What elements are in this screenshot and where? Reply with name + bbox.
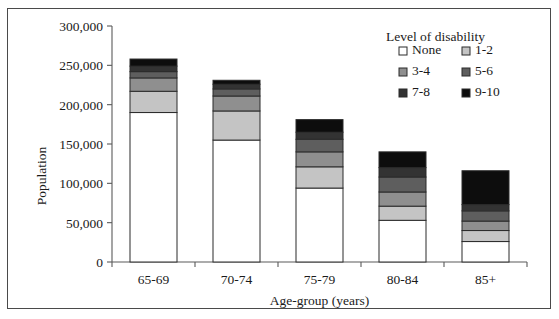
category-label: 80-84 bbox=[387, 272, 419, 287]
y-axis-tick-group: 050,000100,000150,000200,000250,000300,0… bbox=[59, 19, 112, 270]
legend-swatch bbox=[399, 68, 407, 76]
bar-segment bbox=[130, 66, 177, 72]
y-axis-tick-label: 100,000 bbox=[59, 176, 103, 191]
legend-swatch bbox=[399, 89, 407, 97]
bar-segment bbox=[379, 177, 426, 192]
category-label: 70-74 bbox=[221, 272, 253, 287]
bar-segment bbox=[296, 167, 343, 188]
bar-segment bbox=[213, 89, 260, 96]
category-label: 75-79 bbox=[304, 272, 336, 287]
y-axis-tick-label: 300,000 bbox=[59, 19, 103, 34]
bar-segment bbox=[462, 221, 509, 230]
bar-segment bbox=[130, 72, 177, 78]
bar-segment bbox=[462, 205, 509, 211]
bar-series-group bbox=[130, 59, 509, 262]
bar-segment bbox=[213, 96, 260, 111]
bar-segment bbox=[379, 206, 426, 220]
stacked-bar-chart: 050,000100,000150,000200,000250,000300,0… bbox=[0, 0, 559, 319]
legend-swatch bbox=[462, 68, 470, 76]
bar-segment bbox=[462, 242, 509, 262]
bar-segment bbox=[379, 192, 426, 206]
legend-entry-label: 7-8 bbox=[412, 84, 430, 99]
bar-segment bbox=[296, 132, 343, 139]
bar-segment bbox=[379, 168, 426, 177]
figure-canvas: 050,000100,000150,000200,000250,000300,0… bbox=[0, 0, 559, 319]
legend-swatch bbox=[462, 89, 470, 97]
y-axis-tick-label: 150,000 bbox=[59, 137, 103, 152]
category-label: 85+ bbox=[475, 272, 496, 287]
bar-segment bbox=[296, 152, 343, 167]
legend-entry-label: 5-6 bbox=[475, 63, 493, 78]
bar-segment bbox=[379, 152, 426, 168]
legend-entry-label: 9-10 bbox=[475, 84, 500, 99]
bar-segment bbox=[462, 231, 509, 242]
bar-segment bbox=[213, 140, 260, 262]
legend-swatch bbox=[399, 47, 407, 55]
bar-segment bbox=[213, 111, 260, 140]
bar-segment bbox=[130, 91, 177, 112]
legend-entry-label: None bbox=[412, 42, 441, 57]
bar-segment bbox=[213, 84, 260, 89]
x-axis-title: Age-group (years) bbox=[270, 293, 369, 308]
category-label-group: 65-6970-7475-7980-8485+ bbox=[138, 272, 496, 287]
legend-entry-label: 1-2 bbox=[475, 42, 493, 57]
legend-entry-label: 3-4 bbox=[412, 63, 430, 78]
bar-segment bbox=[130, 59, 177, 66]
bar-segment bbox=[296, 139, 343, 152]
y-axis-tick-label: 250,000 bbox=[59, 58, 103, 73]
legend: Level of disabilityNone1-23-45-67-89-10 bbox=[386, 29, 500, 99]
bar-segment bbox=[379, 220, 426, 262]
bar-segment bbox=[462, 171, 509, 205]
bar-segment bbox=[296, 188, 343, 262]
category-label: 65-69 bbox=[138, 272, 170, 287]
bar-segment bbox=[130, 78, 177, 91]
x-axis-tick-group bbox=[112, 262, 527, 267]
bar-segment bbox=[130, 113, 177, 262]
y-axis-tick-label: 50,000 bbox=[66, 216, 103, 231]
bar-segment bbox=[462, 211, 509, 221]
y-axis-title: Population bbox=[34, 147, 49, 206]
y-axis-tick-label: 200,000 bbox=[59, 98, 103, 113]
legend-swatch bbox=[462, 47, 470, 55]
bar-segment bbox=[296, 120, 343, 133]
bar-segment bbox=[213, 80, 260, 84]
y-axis-tick-label: 0 bbox=[96, 255, 103, 270]
